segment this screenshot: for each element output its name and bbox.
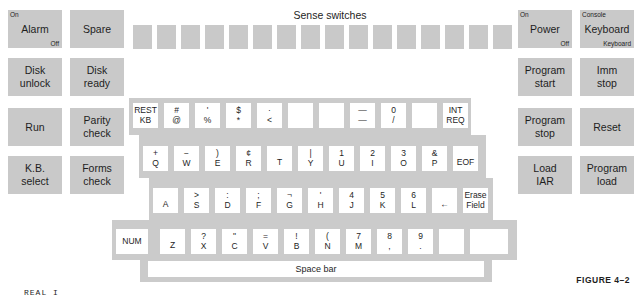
- key-g[interactable]: ¬G: [277, 188, 302, 213]
- key-legend-lower: @: [172, 116, 181, 126]
- key-e[interactable]: )E: [205, 146, 230, 171]
- sense-switch-9[interactable]: [349, 25, 368, 49]
- sense-switch-7[interactable]: [301, 25, 320, 49]
- sense-switch-0[interactable]: [133, 25, 152, 49]
- key-backspace-arrow[interactable]: ←: [432, 188, 457, 213]
- sense-switch-10[interactable]: [373, 25, 392, 49]
- key-u[interactable]: 1U: [329, 146, 354, 171]
- forms-check-indicator[interactable]: Forms check: [70, 156, 124, 194]
- key-s[interactable]: >S: [184, 188, 209, 213]
- key-comma[interactable]: 8,: [377, 229, 402, 254]
- sense-switch-5[interactable]: [253, 25, 272, 49]
- key-j[interactable]: 4J: [339, 188, 364, 213]
- program-stop-button[interactable]: Program stop: [518, 108, 572, 146]
- key-legend-lower: *: [237, 116, 240, 126]
- key-legend-lower: KB: [140, 116, 151, 126]
- key-percent[interactable]: '%: [195, 103, 220, 128]
- key-slash[interactable]: 0/: [381, 103, 406, 128]
- space-bar[interactable]: Space bar: [148, 261, 484, 277]
- sense-switches-title: Sense switches: [280, 9, 380, 21]
- sense-switch-8[interactable]: [325, 25, 344, 49]
- spare-label: Spare: [83, 23, 111, 36]
- sense-switch-2[interactable]: [181, 25, 200, 49]
- key-n[interactable]: (N: [315, 229, 340, 254]
- key-blank-2[interactable]: [319, 103, 344, 128]
- sense-switches-row: [133, 25, 512, 49]
- key-l[interactable]: 6L: [401, 188, 426, 213]
- key-asterisk[interactable]: $*: [226, 103, 251, 128]
- key-c[interactable]: "C: [222, 229, 247, 254]
- sense-switch-6[interactable]: [277, 25, 296, 49]
- key-z[interactable]: Z: [160, 229, 185, 254]
- program-load-label: Program load: [587, 162, 627, 188]
- program-start-button[interactable]: Program start: [518, 58, 572, 96]
- key-legend-lower: EOF: [457, 158, 474, 168]
- key-blank-3[interactable]: [412, 103, 437, 128]
- key-legend-lower: J: [349, 201, 353, 211]
- key-erase-field[interactable]: EraseField: [463, 188, 488, 213]
- keyboard-console-switch[interactable]: Console Keyboard Keyboard: [580, 10, 634, 48]
- key-a[interactable]: A: [153, 188, 178, 213]
- key-int-req[interactable]: INTREQ: [443, 103, 468, 128]
- sense-switch-3[interactable]: [205, 25, 224, 49]
- run-indicator[interactable]: Run: [8, 108, 62, 146]
- key-legend-lower: Q: [152, 159, 159, 169]
- program-start-label: Program start: [525, 64, 565, 90]
- sense-switch-14[interactable]: [469, 25, 488, 49]
- key-blank-1[interactable]: [288, 103, 313, 128]
- load-iar-button[interactable]: Load IAR: [518, 156, 572, 194]
- key-d[interactable]: :D: [215, 188, 240, 213]
- console-label: Console: [582, 11, 606, 18]
- program-load-button[interactable]: Program load: [580, 156, 634, 194]
- key-legend-lower: —: [358, 116, 367, 126]
- key-blank-4[interactable]: [439, 229, 464, 254]
- kb-select-indicator[interactable]: K.B. select: [8, 156, 62, 194]
- alarm-label: Alarm: [21, 23, 48, 36]
- key-legend-lower: D: [224, 201, 230, 211]
- key-dash[interactable]: ——: [350, 103, 375, 128]
- key-q[interactable]: +Q: [143, 146, 168, 171]
- key-v[interactable]: =V: [253, 229, 278, 254]
- key-m[interactable]: 7M: [346, 229, 371, 254]
- sense-switch-13[interactable]: [445, 25, 464, 49]
- key-p[interactable]: &P: [422, 146, 447, 171]
- key-i[interactable]: 2I: [360, 146, 385, 171]
- sense-switch-12[interactable]: [421, 25, 440, 49]
- sense-switch-4[interactable]: [229, 25, 248, 49]
- alarm-switch[interactable]: On Alarm Off: [8, 10, 62, 48]
- key-h[interactable]: 'H: [308, 188, 333, 213]
- imm-stop-button[interactable]: Imm stop: [580, 58, 634, 96]
- sense-switch-11[interactable]: [397, 25, 416, 49]
- key-blank-5[interactable]: [470, 229, 508, 254]
- key-legend-lower: H: [317, 201, 323, 211]
- key-w[interactable]: −W: [174, 146, 199, 171]
- key-b[interactable]: !B: [284, 229, 309, 254]
- key-legend-lower: I: [371, 159, 373, 169]
- key-legend-lower: N: [324, 242, 330, 252]
- key-legend-lower: G: [286, 201, 293, 211]
- key-rest-kb[interactable]: RESTKB: [133, 103, 158, 128]
- footer-text: REAL I: [24, 288, 59, 297]
- disk-ready-indicator[interactable]: Disk ready: [70, 58, 124, 96]
- power-switch[interactable]: On Power Off: [518, 10, 572, 48]
- key-r[interactable]: ¢R: [236, 146, 261, 171]
- key-x[interactable]: ?X: [191, 229, 216, 254]
- disk-unlock-indicator[interactable]: Disk unlock: [8, 58, 62, 96]
- key-t[interactable]: T: [267, 146, 292, 171]
- parity-check-indicator[interactable]: Parity check: [70, 108, 124, 146]
- figure-caption: FIGURE 4–2: [576, 275, 630, 285]
- key-o[interactable]: 3O: [391, 146, 416, 171]
- key-f[interactable]: ;F: [246, 188, 271, 213]
- sense-switch-1[interactable]: [157, 25, 176, 49]
- key-eof[interactable]: EOF: [453, 146, 478, 171]
- reset-button[interactable]: Reset: [580, 108, 634, 146]
- key-num[interactable]: NUM: [116, 229, 148, 254]
- spare-button[interactable]: Spare: [70, 10, 124, 48]
- key-period[interactable]: 9.: [408, 229, 433, 254]
- key-legend-lower: S: [194, 201, 200, 211]
- sense-switch-15[interactable]: [493, 25, 512, 49]
- key-k[interactable]: 5K: [370, 188, 395, 213]
- key-y[interactable]: |Y: [298, 146, 323, 171]
- key-less-than[interactable]: ·<: [257, 103, 282, 128]
- key-at[interactable]: #@: [164, 103, 189, 128]
